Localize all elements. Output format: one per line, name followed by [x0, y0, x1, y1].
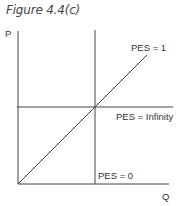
- vertical-line-label: PES = 0: [98, 170, 133, 181]
- diagonal-line-label: PES = 1: [131, 42, 166, 53]
- horizontal-line-label: PES = Infinity: [116, 111, 174, 122]
- y-axis-label: P: [5, 28, 11, 39]
- x-axis-label: Q: [162, 191, 169, 202]
- elasticity-diagram: P Q PES = 1 PES = Infinity PES = 0: [0, 0, 183, 206]
